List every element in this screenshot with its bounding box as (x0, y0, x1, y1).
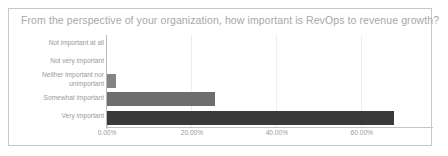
y-axis-label-somewhat-important: Somewhat important (12, 94, 104, 102)
y-axis-label-not-very-important: Not very important (12, 57, 104, 65)
tick-mark-icon (107, 125, 108, 129)
x-tick-20: 20.00% (181, 129, 203, 136)
x-axis-tick-labels: 0.00% 20.00% 40.00% 60.00% (106, 129, 436, 141)
y-axis-category-labels: Not important at all Not very important … (9, 35, 104, 127)
y-axis-label-neither-important-nor-unimportant: Neither important nor unimportant (12, 71, 104, 88)
bar-neither-important-nor-unimportant (107, 74, 116, 88)
x-tick-0: 0.00% (98, 129, 117, 136)
x-tick-label-text: 60.00% (351, 129, 373, 136)
x-tick-label-text: 40.00% (266, 129, 288, 136)
chart-title: From the perspective of your organizatio… (21, 14, 421, 26)
y-axis-label-very-important: Very important (12, 112, 104, 120)
y-axis-label-not-important-at-all: Not important at all (12, 39, 104, 47)
bar-somewhat-important (107, 92, 215, 106)
bar-very-important (107, 111, 394, 125)
x-tick-40: 40.00% (266, 129, 288, 136)
x-tick-label-text: 20.00% (181, 129, 203, 136)
plot-area (106, 35, 433, 127)
x-tick-60: 60.00% (351, 129, 373, 136)
chart-card: From the perspective of your organizatio… (8, 8, 432, 146)
x-tick-label-text: 0.00% (98, 129, 117, 136)
x-axis-line (106, 127, 433, 128)
